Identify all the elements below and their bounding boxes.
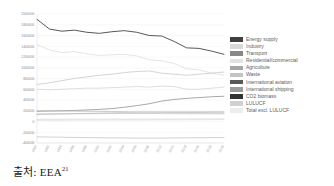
series-line	[37, 96, 224, 111]
x-tick-label: 2002	[106, 144, 113, 153]
x-tick-label: 2000	[93, 144, 100, 153]
chart-figure: 2000000180000016000001400000120000010000…	[0, 0, 334, 160]
legend-swatch-icon	[230, 108, 243, 113]
legend-swatch-icon	[230, 73, 243, 78]
legend-swatch-icon	[230, 66, 243, 71]
x-tick-label: 1998	[81, 144, 88, 153]
y-tick-label: -200000	[22, 131, 35, 135]
y-tick-label: -400000	[22, 141, 35, 145]
chart-legend: Energy supplyIndustryTransportResidentia…	[230, 36, 334, 114]
source-caption: 출처:EEA21	[13, 163, 69, 179]
y-axis-tick-labels: 2000000180000016000001400000120000010000…	[21, 12, 34, 145]
legend-item[interactable]: International shipping	[230, 86, 334, 93]
x-tick-label: 2004	[118, 144, 125, 153]
legend-swatch-icon	[230, 94, 243, 99]
series-line	[37, 137, 224, 138]
x-tick-label: 2010	[155, 144, 162, 153]
legend-item-label: Energy supply	[246, 36, 278, 43]
series-group	[37, 19, 224, 138]
legend-swatch-icon	[230, 101, 243, 106]
legend-swatch-icon	[230, 80, 243, 85]
legend-item[interactable]: Total excl. LULUCF	[230, 107, 334, 114]
legend-item-label: International aviation	[246, 79, 292, 86]
legend-item[interactable]: International aviation	[230, 79, 334, 86]
legend-item-label: Industry	[246, 43, 264, 50]
legend-item-label: International shipping	[246, 86, 294, 93]
legend-swatch-icon	[230, 59, 243, 64]
legend-item[interactable]: Transport	[230, 50, 334, 57]
source-value: EEA	[40, 166, 62, 178]
y-tick-label: 600000	[23, 88, 34, 92]
x-tick-label: 2012	[168, 144, 175, 153]
y-tick-label: 1600000	[21, 34, 34, 38]
x-tick-label: 2006	[131, 144, 138, 153]
y-tick-label: 2000000	[21, 12, 34, 16]
x-tick-label: 2016	[193, 144, 200, 153]
y-tick-label: 1400000	[21, 45, 34, 49]
y-tick-label: 1000000	[21, 66, 34, 70]
gridlines-group	[37, 14, 224, 143]
y-tick-label: 1200000	[21, 55, 34, 59]
legend-item-label: LULUCF	[246, 100, 265, 107]
x-tick-label: 2019	[218, 144, 225, 153]
source-footnote: 21	[62, 165, 69, 172]
legend-item-label: Waste	[246, 71, 260, 78]
legend-swatch-icon	[230, 51, 243, 56]
legend-item-label: CO2 biomass	[246, 93, 276, 100]
x-tick-label: 2008	[143, 144, 150, 153]
legend-swatch-icon	[230, 37, 243, 42]
x-tick-label: 1992	[43, 144, 50, 153]
legend-swatch-icon	[230, 87, 243, 92]
source-label: 출처:	[13, 166, 37, 179]
legend-item[interactable]: Energy supply	[230, 36, 334, 43]
legend-item[interactable]: CO2 biomass	[230, 93, 334, 100]
y-tick-label: 0	[33, 120, 35, 124]
y-tick-label: 200000	[23, 109, 34, 113]
x-tick-label: 1994	[56, 144, 63, 153]
series-line	[37, 45, 224, 76]
legend-item[interactable]: Agriculture	[230, 64, 334, 71]
legend-item-label: Agriculture	[246, 64, 270, 71]
x-tick-label: 2014	[180, 144, 187, 153]
x-tick-label: 1990	[31, 144, 38, 153]
legend-item[interactable]: Waste	[230, 71, 334, 78]
y-tick-label: 1800000	[21, 23, 34, 27]
x-axis-tick-labels: 1990199219941996199820002002200420062008…	[31, 144, 225, 153]
y-tick-label: 400000	[23, 98, 34, 102]
y-tick-label: 800000	[23, 77, 34, 81]
x-tick-label: 2018	[205, 144, 212, 153]
legend-item[interactable]: Residential/commercial	[230, 57, 334, 64]
series-line	[37, 120, 224, 121]
x-tick-label: 1996	[68, 144, 75, 153]
legend-item[interactable]: LULUCF	[230, 100, 334, 107]
legend-item[interactable]: Industry	[230, 43, 334, 50]
legend-item-label: Total excl. LULUCF	[246, 107, 289, 114]
legend-item-label: Residential/commercial	[246, 57, 298, 64]
series-line	[37, 71, 224, 84]
legend-item-label: Transport	[246, 50, 267, 57]
legend-swatch-icon	[230, 44, 243, 49]
